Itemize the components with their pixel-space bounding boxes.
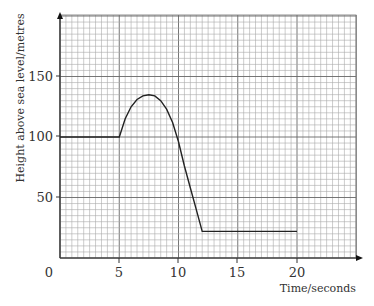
y-tick-150: 150 xyxy=(28,69,53,84)
y-axis-label: Height above sea level/metres xyxy=(14,13,27,182)
x-tick-0: 0 xyxy=(45,265,53,280)
x-tick-10: 10 xyxy=(170,265,187,280)
x-tick-5: 5 xyxy=(115,265,123,280)
chart-svg: 0 5 10 15 20 150 100 50 Time/seconds Hei… xyxy=(0,0,374,306)
x-axis-arrow-icon xyxy=(356,255,363,261)
x-tick-20: 20 xyxy=(289,265,306,280)
y-tick-100: 100 xyxy=(28,129,53,144)
y-axis-arrow-icon xyxy=(57,12,63,19)
y-tick-50: 50 xyxy=(36,190,53,205)
x-tick-15: 15 xyxy=(229,265,246,280)
x-axis-label: Time/seconds xyxy=(280,282,357,295)
